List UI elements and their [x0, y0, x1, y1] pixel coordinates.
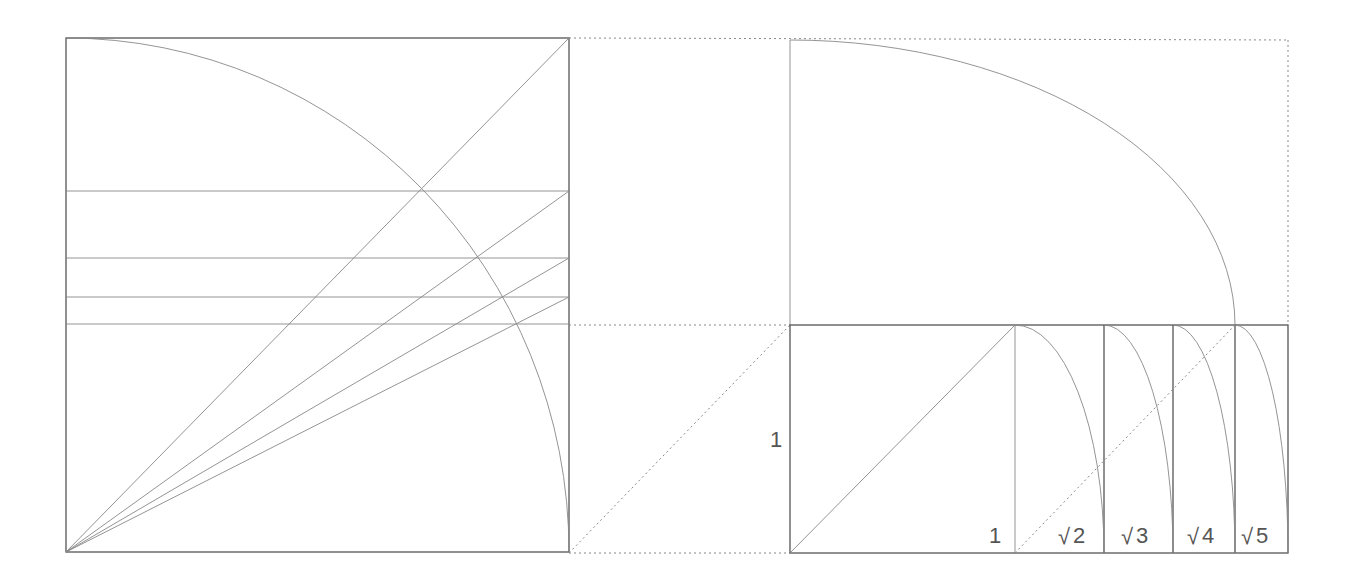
unit-square-diagonal — [790, 325, 1015, 553]
right-figure: 1 1 √ 2 √ 3 √ 4 √ 5 — [770, 40, 1288, 553]
label-root3: √ 3 — [1121, 523, 1148, 549]
dotted-connector-diagonal — [569, 325, 790, 553]
radical-sign: √ — [1121, 524, 1134, 549]
left-figure — [66, 38, 569, 552]
label-root5: √ 5 — [1241, 523, 1268, 549]
diagonal-2 — [66, 191, 569, 552]
label-base-unit: 1 — [989, 523, 1001, 548]
root2-value: 2 — [1073, 523, 1085, 548]
base-rectangle — [790, 325, 1288, 553]
label-root4: √ 4 — [1187, 523, 1214, 549]
large-arc — [790, 40, 1235, 325]
root5-value: 5 — [1256, 523, 1268, 548]
connector-lines — [569, 38, 1288, 553]
label-root2: √ 2 — [1058, 523, 1085, 549]
root4-value: 4 — [1202, 523, 1214, 548]
root-rectangles-diagram: 1 1 √ 2 √ 3 √ 4 √ 5 — [0, 0, 1349, 573]
dotted-top-connector — [569, 38, 1288, 40]
arc-root2 — [1015, 325, 1104, 553]
diagonal-4 — [66, 297, 569, 552]
label-side-unit: 1 — [770, 427, 782, 452]
diagonal-1 — [66, 38, 569, 552]
arc-root5 — [1235, 325, 1288, 553]
radical-sign: √ — [1058, 524, 1071, 549]
arc-root4 — [1173, 325, 1235, 553]
dotted-right-diagonal — [1015, 325, 1235, 553]
root3-value: 3 — [1136, 523, 1148, 548]
radical-sign: √ — [1187, 524, 1200, 549]
diagonal-3 — [66, 258, 569, 552]
arc-root3 — [1104, 325, 1173, 553]
radical-sign: √ — [1241, 524, 1254, 549]
